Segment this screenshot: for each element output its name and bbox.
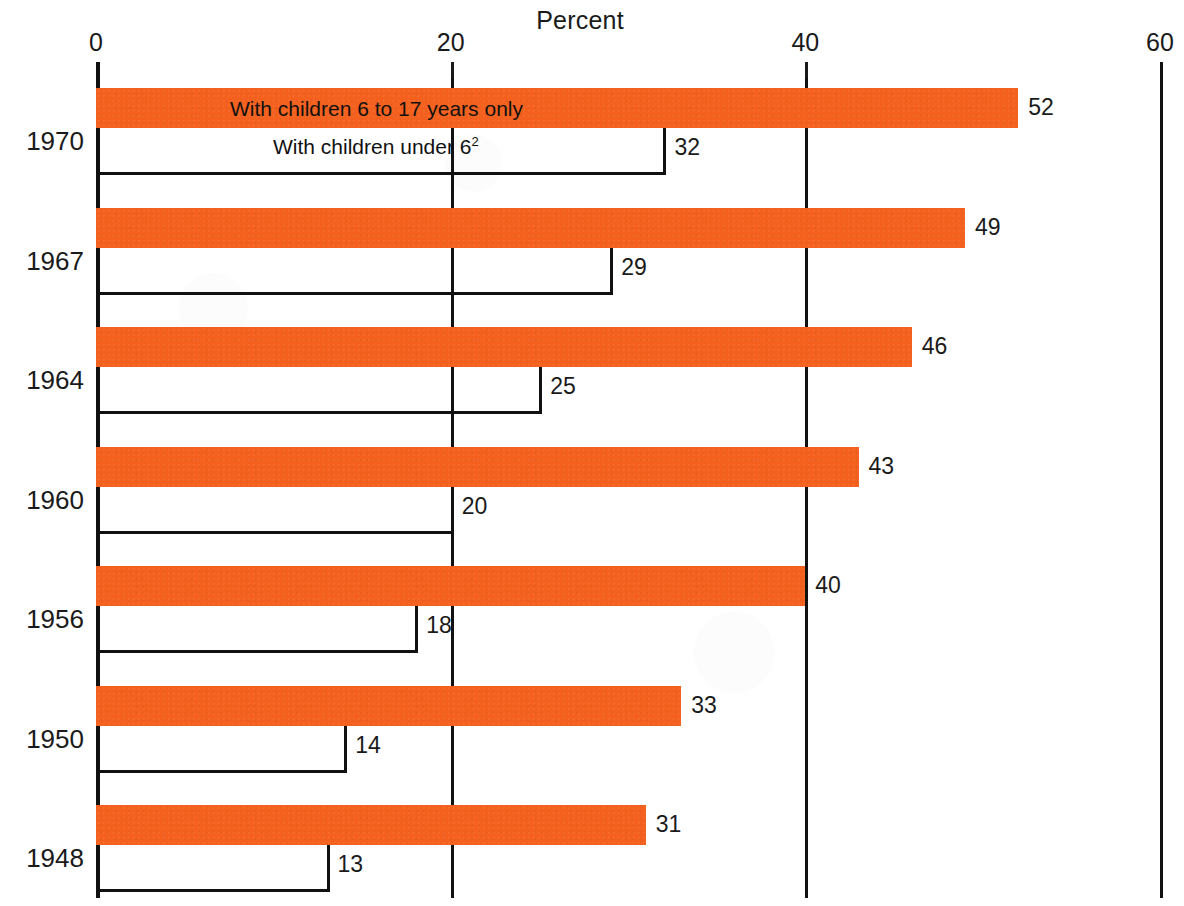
bar-children-6-to-17-1950: [96, 686, 681, 726]
value-label-bottom-1967: 29: [621, 254, 647, 281]
chart-title-text: Percent: [536, 6, 624, 34]
series-annotation-children-under-6-text: With children under 6: [273, 135, 471, 158]
year-label-1948: 1948: [14, 843, 84, 874]
value-label-top-1970: 52: [1028, 94, 1054, 121]
chart-title: Percent: [0, 6, 1184, 35]
bar-children-under-6-base-1956: [96, 650, 418, 653]
year-label-1964: 1964: [14, 365, 84, 396]
value-label-bottom-1970: 32: [674, 134, 700, 161]
bar-children-6-to-17-1948: [96, 805, 646, 845]
series-annotation-footnote-marker: 2: [471, 134, 478, 149]
value-label-bottom-1956: 18: [426, 612, 452, 639]
bar-children-under-6-base-1967: [96, 292, 613, 295]
value-label-top-1964: 46: [922, 333, 948, 360]
bar-children-under-6-base-1964: [96, 411, 542, 414]
bar-children-6-to-17-1967: [96, 208, 965, 248]
bar-children-under-6-edge-1948: [327, 845, 330, 889]
value-label-top-1956: 40: [815, 572, 841, 599]
value-label-bottom-1960: 20: [462, 493, 488, 520]
bar-children-under-6-base-1950: [96, 770, 347, 773]
value-label-bottom-1948: 13: [338, 851, 364, 878]
year-label-1970: 1970: [14, 126, 84, 157]
value-label-bottom-1964: 25: [550, 373, 576, 400]
year-label-1950: 1950: [14, 724, 84, 755]
bar-children-under-6-edge-1950: [344, 726, 347, 770]
chart-root: Percent 0204060 19705232With children 6 …: [0, 0, 1184, 906]
year-label-1956: 1956: [14, 604, 84, 635]
bar-children-under-6-edge-1960: [451, 487, 454, 531]
gridline-60: [1160, 62, 1163, 898]
series-annotation-children-6-to-17: With children 6 to 17 years only: [230, 97, 523, 121]
bar-children-under-6-base-1960: [96, 531, 454, 534]
bar-children-under-6-edge-1970: [663, 128, 666, 172]
x-axis-tick-mark-40: [805, 62, 808, 78]
bar-children-6-to-17-1956: [96, 566, 805, 606]
bar-children-6-to-17-1960: [96, 447, 859, 487]
x-axis-tick-label-60: 60: [1146, 28, 1174, 57]
x-axis-tick-label-40: 40: [791, 28, 819, 57]
bar-children-under-6-base-1970: [96, 172, 666, 175]
bar-children-6-to-17-1964: [96, 327, 912, 367]
value-label-top-1948: 31: [656, 811, 682, 838]
bar-children-under-6-edge-1964: [539, 367, 542, 411]
bar-children-under-6-edge-1967: [610, 248, 613, 292]
x-axis-tick-mark-20: [451, 62, 454, 78]
x-axis-tick-label-20: 20: [437, 28, 465, 57]
value-label-top-1960: 43: [869, 453, 895, 480]
year-label-1967: 1967: [14, 246, 84, 277]
bar-children-under-6-base-1948: [96, 889, 330, 892]
value-label-top-1967: 49: [975, 214, 1001, 241]
value-label-top-1950: 33: [691, 692, 717, 719]
x-axis-tick-label-0: 0: [89, 28, 103, 57]
bar-children-under-6-edge-1956: [415, 606, 418, 650]
series-annotation-children-under-6: With children under 62: [273, 134, 479, 159]
value-label-bottom-1950: 14: [355, 732, 381, 759]
year-label-1960: 1960: [14, 485, 84, 516]
